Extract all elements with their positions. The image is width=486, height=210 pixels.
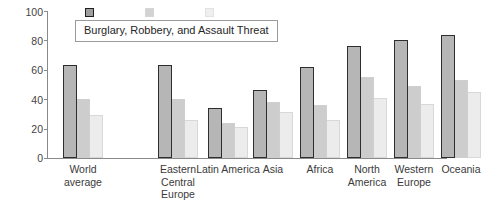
bar [467,92,481,158]
bar [208,108,222,158]
bar [394,40,408,158]
bar [313,105,327,158]
bar [234,127,248,158]
bar [184,120,198,158]
bar [76,99,90,158]
bar [253,90,267,158]
assault-swatch-icon [205,8,214,17]
y-tick-label-0: 0 [5,153,43,163]
y-tick-label-60: 60 [5,65,43,75]
bar [266,102,280,158]
legend-title: Burglary, Robbery, and Assault Threat [75,20,278,42]
burglary-swatch-icon [85,8,94,17]
robbery-swatch-icon [145,8,154,17]
y-axis: 100 80 60 40 20 0 [0,0,43,210]
bar [347,46,361,158]
bar [407,86,421,158]
bar [360,77,374,158]
bar [279,112,293,158]
bar [89,115,103,158]
y-tick-label-100: 100 [5,7,43,17]
bar [171,99,185,158]
bar [441,35,455,158]
x-axis-label: World average [50,163,116,188]
bar [454,80,468,158]
bar [326,120,340,158]
x-axis-line [47,158,447,159]
bar [158,65,172,158]
bar [63,65,77,158]
y-tick-label-40: 40 [5,95,43,105]
bar [373,98,387,158]
bar [221,123,235,158]
x-axis-label: Oceania [428,163,486,176]
y-tick-label-80: 80 [5,36,43,46]
y-tick-label-20: 20 [5,124,43,134]
bar [420,104,434,158]
bar [300,67,314,158]
